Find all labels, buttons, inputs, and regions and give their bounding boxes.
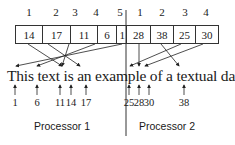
p1-array-cell: 6 <box>97 25 116 44</box>
p1-position: 3 <box>65 6 85 18</box>
p1-offset: 17 <box>76 97 96 108</box>
p1-position: 2 <box>46 6 66 18</box>
p2-array-cell: 28 <box>126 25 150 44</box>
p1-array-cell: 11 <box>70 25 97 44</box>
p1-position: 4 <box>86 6 106 18</box>
p2-offset: 38 <box>174 97 194 108</box>
textual-database-sentence: This text is an example of a textual dat… <box>7 67 235 85</box>
p2-offset: 30 <box>139 97 159 108</box>
p2-array-cell: 38 <box>150 25 173 44</box>
p2-position: 2 <box>152 6 172 18</box>
p1-offset: 6 <box>27 97 47 108</box>
p1-position: 1 <box>19 6 39 18</box>
p2-position: 3 <box>175 6 195 18</box>
p1-array-cell: 14 <box>15 25 42 44</box>
p2-position: 1 <box>130 6 150 18</box>
p2-position: 4 <box>196 6 216 18</box>
processor-2-label: Processor 2 <box>139 120 195 132</box>
p1-array-cell: 17 <box>42 25 70 44</box>
p1-array-cell: 1 <box>116 25 126 44</box>
processor-1-label: Processor 1 <box>34 120 90 132</box>
p2-array-cell: 25 <box>173 25 195 44</box>
p2-array-cell: 30 <box>195 25 219 44</box>
p1-offset: 1 <box>5 97 25 108</box>
p1-position: 5 <box>110 6 130 18</box>
